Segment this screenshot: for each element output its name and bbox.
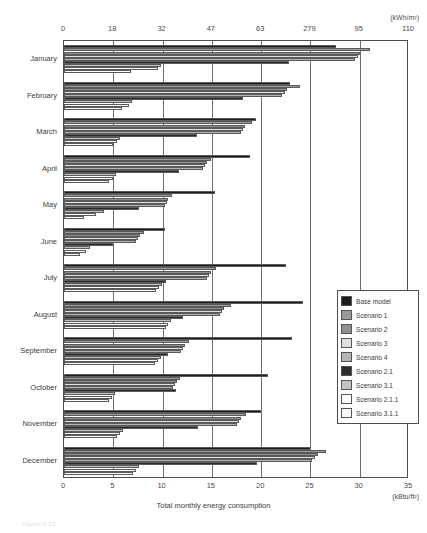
legend-item[interactable]: Scenario 2 bbox=[341, 322, 415, 336]
top-axis-tick-label: 63 bbox=[256, 24, 264, 33]
category-label: June bbox=[0, 236, 57, 245]
category-label: January bbox=[0, 54, 57, 63]
legend-item[interactable]: Base model bbox=[341, 294, 415, 308]
legend-label: Scenario 2 bbox=[356, 326, 388, 333]
legend-item[interactable]: Scenario 2.1.1 bbox=[341, 392, 415, 406]
figure-caption: Figure 4.23 bbox=[22, 521, 56, 527]
legend-label: Scenario 3.1.1 bbox=[356, 410, 399, 417]
legend-label: Scenario 1 bbox=[356, 312, 388, 319]
category-label: May bbox=[0, 200, 57, 209]
figure-container: (kWh/m²) 01832476327995110 JanuaryFebrua… bbox=[0, 0, 427, 533]
legend-label: Base model bbox=[356, 298, 391, 305]
top-axis-unit: (kWh/m²) bbox=[390, 13, 419, 22]
top-axis-tick-label: 47 bbox=[207, 24, 215, 33]
category-label: November bbox=[0, 419, 57, 428]
legend-item[interactable]: Scenario 3.1 bbox=[341, 378, 415, 392]
x-axis-title: Total monthly energy consumption bbox=[0, 501, 427, 510]
top-axis-tick-label: 279 bbox=[303, 24, 316, 33]
legend-label: Scenario 2.1 bbox=[356, 368, 393, 375]
top-axis-tick-label: 18 bbox=[108, 24, 116, 33]
top-axis-tick-label: 95 bbox=[355, 24, 363, 33]
legend-item[interactable]: Scenario 3 bbox=[341, 336, 415, 350]
bottom-axis-tick-label: 20 bbox=[256, 481, 264, 490]
category-label: March bbox=[0, 127, 57, 136]
category-label: April bbox=[0, 163, 57, 172]
bottom-axis-tick-label: 0 bbox=[61, 481, 65, 490]
top-axis-tick-label: 0 bbox=[61, 24, 65, 33]
legend-label: Scenario 3 bbox=[356, 340, 388, 347]
legend-swatch-icon bbox=[341, 380, 352, 390]
top-axis-unit-label: (kWh/m²) bbox=[390, 14, 419, 21]
legend-item[interactable]: Scenario 2.1 bbox=[341, 364, 415, 378]
chart-legend: Base modelScenario 1Scenario 2Scenario 3… bbox=[337, 290, 419, 424]
bottom-axis: 05101520253035 bbox=[63, 481, 408, 495]
legend-swatch-icon bbox=[341, 338, 352, 348]
legend-swatch-icon bbox=[341, 310, 352, 320]
legend-swatch-icon bbox=[341, 408, 352, 418]
legend-item[interactable]: Scenario 3.1.1 bbox=[341, 406, 415, 420]
legend-swatch-icon bbox=[341, 366, 352, 376]
legend-item[interactable]: Scenario 1 bbox=[341, 308, 415, 322]
legend-swatch-icon bbox=[341, 324, 352, 334]
category-label: September bbox=[0, 346, 57, 355]
top-axis-tick-label: 110 bbox=[402, 24, 414, 33]
top-axis-tick-label: 32 bbox=[157, 24, 165, 33]
category-label: February bbox=[0, 90, 57, 99]
bottom-axis-tick-label: 30 bbox=[355, 481, 363, 490]
top-axis: 01832476327995110 bbox=[63, 24, 408, 38]
bottom-axis-unit: (kBtu/ft²) bbox=[392, 492, 419, 501]
category-label: August bbox=[0, 309, 57, 318]
legend-swatch-icon bbox=[341, 394, 352, 404]
bottom-axis-tick-label: 25 bbox=[305, 481, 313, 490]
category-label: July bbox=[0, 273, 57, 282]
category-label: December bbox=[0, 455, 57, 464]
legend-item[interactable]: Scenario 4 bbox=[341, 350, 415, 364]
legend-swatch-icon bbox=[341, 296, 352, 306]
bottom-axis-tick-label: 5 bbox=[110, 481, 114, 490]
bottom-axis-tick-label: 10 bbox=[157, 481, 165, 490]
legend-label: Scenario 4 bbox=[356, 354, 388, 361]
legend-swatch-icon bbox=[341, 352, 352, 362]
bottom-axis-tick-label: 35 bbox=[404, 481, 412, 490]
category-label: October bbox=[0, 382, 57, 391]
bottom-axis-unit-label: (kBtu/ft²) bbox=[392, 493, 419, 500]
legend-label: Scenario 2.1.1 bbox=[356, 396, 399, 403]
bottom-axis-tick-label: 15 bbox=[207, 481, 215, 490]
legend-label: Scenario 3.1 bbox=[356, 382, 393, 389]
